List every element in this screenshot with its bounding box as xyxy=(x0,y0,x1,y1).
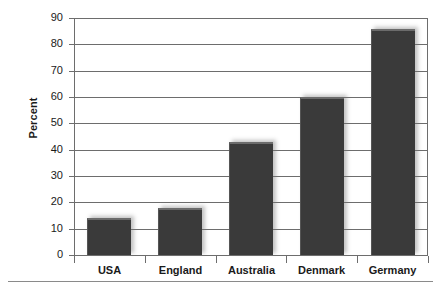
x-axis-tick xyxy=(286,256,287,263)
bar-chart: 0102030405060708090 USAEnglandAustraliaD… xyxy=(0,0,441,290)
bar-england xyxy=(158,208,202,255)
x-axis-label-usa: USA xyxy=(74,264,145,276)
bar-usa xyxy=(87,218,131,255)
bar-denmark xyxy=(300,97,344,255)
right-axis-line xyxy=(427,18,428,256)
x-axis-tick xyxy=(216,256,217,263)
y-axis-tick-label: 70 xyxy=(23,65,63,76)
y-axis-tick-label: 30 xyxy=(23,170,63,181)
x-axis-label-england: England xyxy=(145,264,216,276)
bottom-divider xyxy=(8,281,433,282)
bar-australia xyxy=(229,142,273,255)
y-axis-tick-label: 80 xyxy=(23,38,63,49)
gridline xyxy=(74,18,428,19)
x-axis-tick xyxy=(74,256,75,263)
x-axis-tick xyxy=(357,256,358,263)
x-axis-line xyxy=(74,255,428,256)
bar-germany xyxy=(371,29,415,255)
y-axis-tick-label: 90 xyxy=(23,12,63,23)
y-axis-tick-label: 0 xyxy=(23,249,63,260)
x-axis-label-denmark: Denmark xyxy=(286,264,357,276)
y-axis-line xyxy=(74,18,75,256)
y-axis-title: Percent xyxy=(27,83,39,153)
x-axis-label-australia: Australia xyxy=(216,264,287,276)
x-axis-tick xyxy=(145,256,146,263)
y-axis-tick-label: 10 xyxy=(23,223,63,234)
x-axis-label-germany: Germany xyxy=(357,264,428,276)
plot-area: 0102030405060708090 USAEnglandAustraliaD… xyxy=(0,0,441,290)
y-axis-tick-label: 20 xyxy=(23,196,63,207)
x-axis-tick xyxy=(428,256,429,263)
